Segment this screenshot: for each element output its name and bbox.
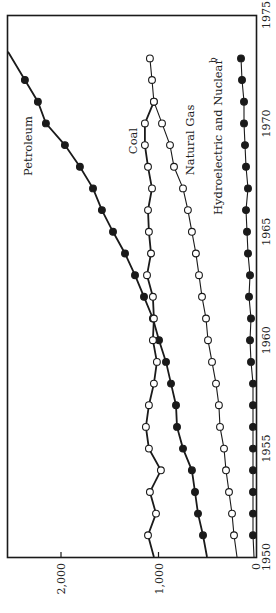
filled-circle-marker — [189, 467, 196, 474]
open-circle-marker — [213, 380, 220, 387]
open-circle-marker — [147, 489, 154, 496]
open-circle-marker — [217, 424, 224, 431]
filled-circle-marker — [195, 510, 202, 517]
open-circle-marker — [229, 510, 236, 517]
filled-circle-marker — [192, 489, 199, 496]
filled-circle-marker — [180, 445, 187, 452]
open-circle-marker — [142, 120, 149, 127]
year-tick-label: 1960 — [260, 326, 273, 354]
filled-circle-marker — [243, 207, 250, 214]
series-coal — [142, 98, 165, 557]
filled-circle-marker — [248, 315, 255, 322]
year-tick-label: 1955 — [260, 435, 273, 463]
filled-circle-marker — [245, 250, 252, 257]
series-petroleum — [8, 52, 207, 557]
filled-circle-marker — [22, 77, 29, 84]
value-tick-label: 1,000 — [153, 563, 166, 595]
open-circle-marker — [144, 272, 151, 279]
open-circle-marker — [149, 185, 156, 192]
open-circle-marker — [150, 337, 157, 344]
year-tick-label: 1950 — [260, 543, 273, 571]
axis-ticks: 01,0002,000195019551960196519701975 — [55, 1, 273, 595]
open-circle-marker — [147, 55, 154, 62]
open-circle-marker — [146, 445, 153, 452]
open-circle-marker — [154, 359, 161, 366]
open-circle-marker — [209, 359, 216, 366]
open-circle-marker — [171, 163, 178, 170]
filled-circle-marker — [245, 185, 252, 192]
label-coal: Coal — [126, 128, 140, 155]
filled-circle-marker — [43, 120, 50, 127]
label-hydro-footnote: b — [208, 57, 218, 63]
open-circle-marker — [145, 207, 152, 214]
filled-circle-marker — [250, 510, 257, 517]
filled-circle-marker — [250, 445, 257, 452]
year-tick-label: 1975 — [260, 1, 273, 29]
filled-circle-marker — [77, 163, 84, 170]
year-tick-label: 1970 — [260, 109, 273, 137]
open-circle-marker — [221, 445, 228, 452]
open-circle-marker — [226, 489, 233, 496]
filled-circle-marker — [239, 77, 246, 84]
filled-circle-marker — [168, 380, 175, 387]
label-natural-gas: Natural Gas — [183, 105, 197, 176]
open-circle-marker — [231, 532, 238, 539]
filled-circle-marker — [242, 142, 249, 149]
open-circle-marker — [199, 293, 206, 300]
open-circle-marker — [151, 98, 158, 105]
filled-circle-marker — [250, 402, 257, 409]
open-circle-marker — [158, 467, 165, 474]
filled-circle-marker — [62, 142, 69, 149]
open-circle-marker — [193, 250, 200, 257]
open-circle-marker — [180, 185, 187, 192]
filled-circle-marker — [250, 380, 257, 387]
open-circle-marker — [151, 315, 158, 322]
label-hydro-nuclear: Hydroelectric and Nuclear — [211, 59, 225, 215]
energy-consumption-chart: 01,0002,000195019551960196519701975 Petr… — [0, 0, 276, 613]
open-circle-marker — [145, 532, 152, 539]
series-hydroelectric-and-nuclear — [238, 55, 257, 557]
open-circle-marker — [149, 77, 156, 84]
filled-circle-marker — [163, 359, 170, 366]
filled-circle-marker — [141, 293, 148, 300]
filled-circle-marker — [247, 272, 254, 279]
filled-circle-marker — [132, 272, 139, 279]
series-line — [241, 58, 254, 557]
filled-circle-marker — [250, 489, 257, 496]
filled-circle-marker — [250, 424, 257, 431]
open-circle-marker — [167, 142, 174, 149]
open-circle-marker — [148, 250, 155, 257]
label-petroleum: Petroleum — [21, 116, 35, 176]
open-circle-marker — [223, 467, 230, 474]
open-circle-marker — [146, 228, 153, 235]
open-circle-marker — [196, 272, 203, 279]
filled-circle-marker — [248, 359, 255, 366]
filled-circle-marker — [247, 337, 254, 344]
filled-circle-marker — [35, 98, 42, 105]
open-circle-marker — [159, 120, 166, 127]
filled-circle-marker — [244, 228, 251, 235]
year-tick-label: 1965 — [260, 218, 273, 246]
filled-circle-marker — [200, 532, 207, 539]
filled-circle-marker — [90, 185, 97, 192]
filled-circle-marker — [122, 250, 129, 257]
open-circle-marker — [185, 207, 192, 214]
filled-circle-marker — [99, 207, 106, 214]
filled-circle-marker — [174, 424, 181, 431]
open-circle-marker — [150, 293, 157, 300]
filled-circle-marker — [241, 120, 248, 127]
filled-circle-marker — [250, 467, 257, 474]
open-circle-marker — [189, 228, 196, 235]
open-circle-marker — [216, 402, 223, 409]
filled-circle-marker — [173, 402, 180, 409]
filled-circle-marker — [241, 98, 248, 105]
series-line — [8, 52, 207, 557]
filled-circle-marker — [250, 532, 257, 539]
filled-circle-marker — [243, 163, 250, 170]
filled-circle-marker — [110, 228, 117, 235]
open-circle-marker — [142, 142, 149, 149]
open-circle-marker — [203, 315, 210, 322]
open-circle-marker — [153, 510, 160, 517]
filled-circle-marker — [246, 293, 253, 300]
filled-circle-marker — [238, 55, 245, 62]
